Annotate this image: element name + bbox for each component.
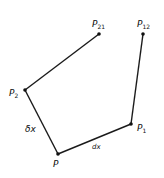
label-p: P [53,159,59,169]
label-delta-x: δx [25,124,37,134]
label-p1: P1 [137,123,146,134]
point-p2 [23,88,27,92]
edge-p2-p21 [25,34,99,90]
point-p [56,152,60,156]
point-p12 [141,32,145,36]
diagram-canvas: P P1 P2 P12 P21 δx dx [0,0,164,178]
edge-p-p2 [25,90,58,154]
edge-p1-p12 [131,34,143,124]
label-p21: P21 [92,19,105,30]
label-dx: dx [92,143,101,151]
label-p2: P2 [9,88,18,99]
label-p12: P12 [137,19,150,30]
point-p1 [129,122,133,126]
point-p21 [97,32,101,36]
